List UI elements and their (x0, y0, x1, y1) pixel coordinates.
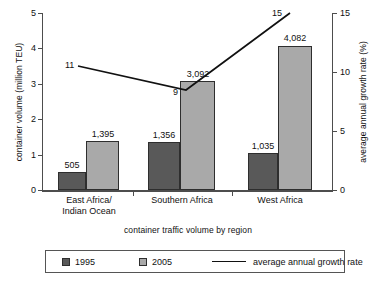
y-axis-left-label-1: 1 (18, 150, 36, 160)
y-axis-left-tick-3 (38, 84, 42, 85)
legend-label-1995: 1995 (75, 257, 95, 267)
y-axis-left-label-3: 3 (18, 79, 36, 89)
x-axis-category-east-africa: East Africa/Indian Ocean (38, 195, 140, 217)
bar-2005-east-africa (86, 141, 119, 190)
x-axis-line (42, 190, 333, 192)
legend-item-1995: 1995 (62, 257, 95, 267)
y-axis-right-tick-15 (333, 13, 337, 14)
x-axis-category-west-africa-line1: West Africa (257, 195, 302, 205)
line-label-east-africa: 11 (65, 60, 74, 70)
y-axis-left-label-0: 0 (18, 185, 36, 195)
x-axis-category-southern-africa: Southern Africa (131, 195, 233, 206)
y-axis-right-tick-10 (333, 72, 337, 73)
y-axis-right-tick-0 (333, 190, 337, 191)
y-axis-left-tick-1 (38, 155, 42, 156)
line-label-west-africa: 15 (272, 8, 282, 18)
legend-swatch-1995-icon (62, 258, 70, 266)
y-axis-left-tick-2 (38, 119, 42, 120)
bar-label-2005-west-africa: 4,082 (271, 33, 319, 43)
bar-2005-southern-africa (180, 81, 215, 190)
y-axis-right-tick-5 (333, 131, 337, 132)
y-axis-right-label-15: 15 (340, 8, 358, 18)
x-axis-category-southern-africa-line1: Southern Africa (151, 195, 213, 205)
y-axis-right-label-10: 10 (340, 67, 358, 77)
y-axis-right-title: average annual growth rate (%) (358, 17, 368, 187)
y-axis-right-line (332, 13, 333, 191)
legend-swatch-2005-icon (139, 258, 147, 266)
bar-label-2005-southern-africa: 3,092 (174, 69, 222, 79)
y-axis-left-tick-5 (38, 13, 42, 14)
bar-2005-west-africa (278, 46, 312, 190)
legend-label-2005: 2005 (152, 257, 172, 267)
chart-container: container volume (million TEU) average a… (0, 0, 376, 281)
x-axis-category-west-africa: West Africa (229, 195, 331, 206)
y-axis-left-label-4: 4 (18, 43, 36, 53)
legend-line-growth-rate-icon (212, 261, 246, 262)
legend-item-2005: 2005 (139, 257, 172, 267)
y-axis-left-tick-4 (38, 48, 42, 49)
line-label-southern-africa: 9 (173, 87, 178, 97)
bar-1995-east-africa (58, 172, 86, 190)
x-axis-category-east-africa-line2: Indian Ocean (62, 206, 116, 216)
bar-label-2005-east-africa: 1,395 (80, 129, 126, 139)
bar-1995-west-africa (248, 153, 278, 190)
legend-item-growth-rate: average annual growth rate (212, 257, 363, 267)
y-axis-left-label-2: 2 (18, 114, 36, 124)
legend-label-growth-rate: average annual growth rate (253, 257, 363, 267)
y-axis-right-label-5: 5 (340, 126, 358, 136)
y-axis-right-label-0: 0 (340, 185, 358, 195)
chart-legend: 1995 2005 average annual growth rate (45, 250, 345, 273)
y-axis-left-line (42, 13, 43, 191)
x-axis-title: container traffic volume by region (0, 225, 376, 235)
x-axis-category-east-africa-line1: East Africa/ (66, 195, 112, 205)
y-axis-left-label-5: 5 (18, 8, 36, 18)
bar-1995-southern-africa (148, 142, 180, 190)
